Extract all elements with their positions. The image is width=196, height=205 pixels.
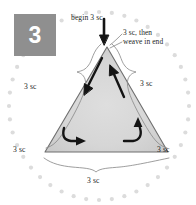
label-bottom-left-corner: 3 sc bbox=[13, 145, 25, 154]
label-left-side: 3 sc bbox=[24, 82, 36, 91]
label-bottom-side: 3 sc bbox=[87, 176, 99, 185]
label-begin: begin 3 sc bbox=[71, 13, 103, 22]
begin-arrow bbox=[100, 19, 109, 45]
arrow-up-right bbox=[110, 65, 124, 97]
step-number-badge: 3 bbox=[14, 14, 56, 56]
label-weave-line1: 3 sc, then bbox=[123, 28, 163, 37]
arrow-down-left bbox=[84, 58, 102, 95]
label-weave-line2: weave in end bbox=[123, 37, 163, 46]
label-bottom-right-corner: 3 sc bbox=[157, 145, 169, 154]
label-weave-in-end: 3 sc, then weave in end bbox=[123, 28, 163, 46]
step-number: 3 bbox=[29, 24, 42, 47]
arrow-hook-bottom-left bbox=[63, 128, 86, 145]
arrow-hook-bottom-right bbox=[124, 117, 142, 141]
label-right-side: 3 sc bbox=[140, 79, 152, 88]
diagram-canvas: 3 begin 3 sc 3 sc, then weave in end 3 s… bbox=[0, 0, 196, 205]
